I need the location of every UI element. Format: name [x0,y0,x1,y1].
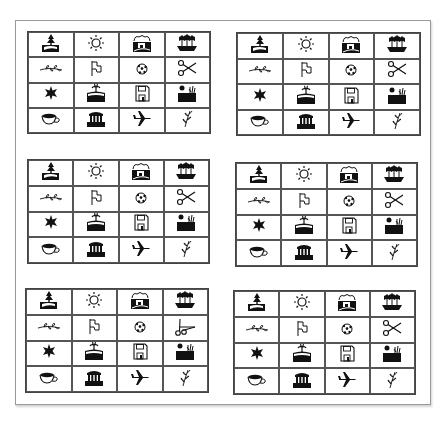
grid-cell[interactable] [74,32,120,57]
grid-cell[interactable] [283,84,329,110]
grid-cell[interactable] [74,108,120,133]
grid-cell[interactable] [370,368,415,394]
grid-cell[interactable] [236,163,281,189]
grid-cell[interactable] [281,163,326,189]
grid-cell[interactable] [327,163,372,189]
grid-cell[interactable] [72,315,118,341]
grid-cell[interactable] [28,83,74,108]
grid-cell[interactable] [374,84,420,110]
grid-cell[interactable] [372,189,417,215]
grid-cell[interactable] [234,317,279,343]
grid-cell[interactable] [279,368,324,394]
grid-cell[interactable] [327,240,372,266]
grid-cell[interactable] [28,186,73,212]
grid-cell[interactable] [119,108,165,133]
grid-cell[interactable] [26,315,72,341]
grid-cell[interactable] [374,59,420,85]
herb-sprig-icon [380,369,404,393]
grid-cell[interactable] [325,343,370,369]
grid-cell[interactable] [237,33,283,59]
grid-cell[interactable] [165,83,211,108]
grid-cell[interactable] [73,160,118,186]
grid-cell[interactable] [279,317,324,343]
grid-cell[interactable] [372,215,417,241]
grid-cell[interactable] [237,59,283,85]
grid-cell[interactable] [236,240,281,266]
grid-cell[interactable] [26,366,72,392]
grid-cell[interactable] [119,160,164,186]
grid-cell[interactable] [329,33,375,59]
grid-cell[interactable] [234,291,279,317]
grid-cell[interactable] [279,291,324,317]
grid-cell[interactable] [370,291,415,317]
grid-cell[interactable] [164,160,209,186]
grid-cell[interactable] [164,237,209,263]
grid-cell[interactable] [372,240,417,266]
scissors-rotated-icon [173,316,197,340]
grid-cell[interactable] [72,289,118,315]
grid-cell[interactable] [236,189,281,215]
grid-cell[interactable] [164,186,209,212]
grid-cell[interactable] [329,110,375,136]
grid-cell[interactable] [163,289,209,315]
grid-cell[interactable] [329,59,375,85]
grid-cell[interactable] [325,317,370,343]
grid-cell[interactable] [279,343,324,369]
grid-cell[interactable] [73,212,118,238]
grid-cell[interactable] [165,57,211,82]
grid-cell[interactable] [117,289,163,315]
grid-cell[interactable] [26,341,72,367]
grid-cell[interactable] [163,366,209,392]
grid-cell[interactable] [237,84,283,110]
grid-cell[interactable] [119,57,165,82]
grid-cell[interactable] [72,366,118,392]
grid-cell[interactable] [119,237,164,263]
grid-cell[interactable] [325,291,370,317]
grid-cell[interactable] [163,341,209,367]
grid-cell[interactable] [163,315,209,341]
grid-cell[interactable] [28,160,73,186]
grid-cell[interactable] [283,33,329,59]
grid-cell[interactable] [234,343,279,369]
grid-cell[interactable] [325,368,370,394]
grid-cell[interactable] [28,32,74,57]
grid-cell[interactable] [283,59,329,85]
grid-cell[interactable] [327,189,372,215]
grid-cell[interactable] [119,83,165,108]
grid-cell[interactable] [73,237,118,263]
grid-cell[interactable] [117,341,163,367]
grid-cell[interactable] [28,108,74,133]
grid-cell[interactable] [117,315,163,341]
grid-cell[interactable] [374,33,420,59]
tree-landscape-icon [37,290,61,314]
grid-cell[interactable] [370,343,415,369]
grid-cell[interactable] [372,163,417,189]
grid-cell[interactable] [28,212,73,238]
grid-cell[interactable] [281,189,326,215]
grid-cell[interactable] [73,186,118,212]
grid-cell[interactable] [374,110,420,136]
grid-cell[interactable] [165,32,211,57]
grid-cell[interactable] [370,317,415,343]
grid-cell[interactable] [119,212,164,238]
grid-cell[interactable] [327,215,372,241]
grid-cell[interactable] [119,186,164,212]
grid-cell[interactable] [281,240,326,266]
grid-cell[interactable] [281,215,326,241]
grid-cell[interactable] [237,110,283,136]
grid-cell[interactable] [119,32,165,57]
grid-cell[interactable] [72,341,118,367]
grid-cell[interactable] [74,57,120,82]
grid-cell[interactable] [236,215,281,241]
ship-icon [380,292,404,316]
grid-cell[interactable] [117,366,163,392]
grid-cell[interactable] [283,110,329,136]
grid-cell[interactable] [165,108,211,133]
grid-cell[interactable] [28,237,73,263]
grid-cell[interactable] [74,83,120,108]
grid-cell[interactable] [164,212,209,238]
grid-cell[interactable] [26,289,72,315]
grid-cell[interactable] [329,84,375,110]
grid-cell[interactable] [234,368,279,394]
grid-cell[interactable] [28,57,74,82]
